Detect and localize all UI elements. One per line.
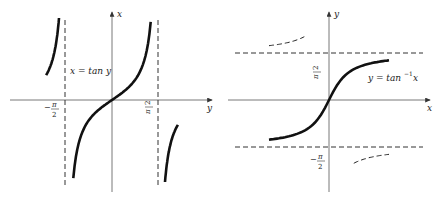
- right-horizontal-axis-label: x: [427, 103, 432, 113]
- figure-svg: x y x = tan y − π 2 π 2 y x y = tan −1 x: [0, 0, 441, 199]
- svg-text:2: 2: [312, 66, 320, 70]
- tan-right-branch: [165, 125, 178, 182]
- right-vertical-axis-label: y: [333, 9, 340, 19]
- svg-text:π: π: [317, 153, 323, 161]
- left-horizontal-axis-label: y: [206, 103, 213, 113]
- svg-text:2: 2: [52, 111, 56, 119]
- svg-text:−: −: [44, 103, 51, 112]
- left-vertical-axis-label: x: [117, 9, 122, 19]
- svg-text:2: 2: [318, 163, 322, 171]
- left-tick-label-neg: − π 2: [44, 101, 59, 119]
- svg-text:y = tan: y = tan: [367, 73, 401, 83]
- svg-text:π: π: [312, 74, 320, 80]
- chart-tan: x y x = tan y − π 2 π 2: [10, 9, 213, 192]
- arctan-upper-dashed-branch: [269, 37, 304, 46]
- figure: x y x = tan y − π 2 π 2 y x y = tan −1 x: [0, 0, 441, 199]
- arctan-lower-dashed-branch: [354, 154, 389, 163]
- left-curve-label: x = tan y: [70, 66, 112, 76]
- right-tick-label-neg: − π 2: [310, 153, 325, 171]
- svg-text:π: π: [144, 109, 152, 115]
- svg-text:π: π: [51, 101, 57, 109]
- right-tick-label-pos: π 2: [312, 66, 321, 80]
- chart-arctan: y x y = tan −1 x π 2 − π 2: [228, 9, 432, 192]
- svg-text:2: 2: [144, 101, 152, 105]
- right-curve-label: y = tan −1 x: [367, 70, 418, 83]
- svg-text:−: −: [310, 155, 317, 164]
- svg-text:x: x: [413, 73, 418, 83]
- left-tick-label-pos: π 2: [144, 101, 153, 115]
- svg-text:−1: −1: [404, 70, 413, 77]
- tan-left-branch: [46, 18, 59, 75]
